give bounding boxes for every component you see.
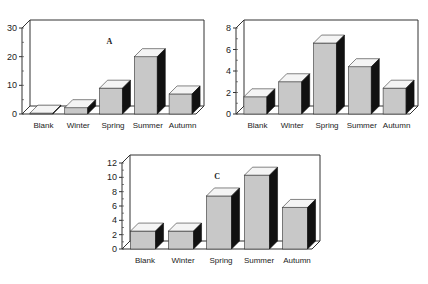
bar-front xyxy=(65,108,88,114)
bar-side xyxy=(371,59,379,114)
chart-panel-a: 0102030ABlankWinterSpringSummerAutumn xyxy=(0,10,214,140)
bar-side xyxy=(308,199,316,249)
x-tick-label: Winter xyxy=(67,121,90,130)
chart-panel-b: 02468BBlankWinterSpringSummerAutumn xyxy=(214,10,428,140)
bar-side xyxy=(157,49,165,114)
bar-winter xyxy=(65,100,96,114)
bar-autumn xyxy=(282,199,315,249)
y-tick-label: 12 xyxy=(107,158,117,168)
bar-chart-b: 02468BBlankWinterSpringSummerAutumn xyxy=(214,10,428,140)
x-tick-label: Winter xyxy=(171,256,194,265)
bar-blank xyxy=(130,223,163,249)
x-tick-label: Blank xyxy=(247,121,268,130)
bar-front xyxy=(279,82,302,114)
x-tick-label: Spring xyxy=(101,121,124,130)
bar-summer xyxy=(134,49,165,114)
chart-panel-c: 024681012CBlankWinterSpringSummerAutumn xyxy=(100,145,330,275)
x-tick-label: Blank xyxy=(33,121,54,130)
x-tick-label: Blank xyxy=(135,256,156,265)
x-tick-label: Summer xyxy=(133,121,164,130)
y-tick-label: 10 xyxy=(7,80,17,90)
y-tick-label: 2 xyxy=(112,230,117,240)
bar-front xyxy=(130,231,155,249)
x-tick-label: Autumn xyxy=(283,256,311,265)
bar-spring xyxy=(100,80,131,114)
bar-front xyxy=(168,231,193,249)
bar-front xyxy=(206,196,231,249)
x-tick-label: Spring xyxy=(315,121,338,130)
bar-autumn xyxy=(383,80,414,114)
bar-front xyxy=(314,43,337,114)
bar-side xyxy=(336,35,344,114)
bar-front xyxy=(134,57,157,114)
bar-front xyxy=(169,94,192,114)
y-tick-label: 0 xyxy=(12,109,17,119)
bar-winter xyxy=(279,74,310,114)
x-tick-label: Winter xyxy=(281,121,304,130)
y-tick-label: 6 xyxy=(226,45,231,55)
y-tick-label: 10 xyxy=(107,172,117,182)
x-tick-label: Summer xyxy=(244,256,275,265)
bar-front xyxy=(383,88,406,114)
y-tick-label: 0 xyxy=(226,109,231,119)
x-tick-label: Autumn xyxy=(169,121,197,130)
bar-spring xyxy=(206,188,239,249)
bar-front xyxy=(244,97,267,114)
bar-side xyxy=(270,167,278,249)
panel-label: C xyxy=(214,172,220,181)
y-tick-label: 4 xyxy=(226,66,231,76)
bar-front xyxy=(348,67,371,114)
bar-front xyxy=(100,88,123,114)
y-tick-label: 6 xyxy=(112,201,117,211)
y-tick-label: 20 xyxy=(7,52,17,62)
bar-winter xyxy=(168,223,201,249)
y-tick-label: 8 xyxy=(226,23,231,33)
bar-side xyxy=(232,188,240,249)
x-tick-label: Spring xyxy=(209,256,232,265)
y-tick-label: 4 xyxy=(112,215,117,225)
bar-front xyxy=(282,207,307,249)
y-tick-label: 30 xyxy=(7,23,17,33)
bar-chart-c: 024681012CBlankWinterSpringSummerAutumn xyxy=(100,145,330,275)
bar-summer xyxy=(348,59,379,114)
y-tick-label: 2 xyxy=(226,88,231,98)
y-tick-label: 0 xyxy=(112,244,117,254)
bar-blank xyxy=(244,89,275,114)
bar-summer xyxy=(244,167,277,249)
panel-label: A xyxy=(106,37,112,46)
x-tick-label: Autumn xyxy=(383,121,411,130)
x-tick-label: Summer xyxy=(347,121,378,130)
y-tick-label: 8 xyxy=(112,187,117,197)
bar-autumn xyxy=(169,86,200,114)
bar-chart-a: 0102030ABlankWinterSpringSummerAutumn xyxy=(0,10,214,140)
bar-front xyxy=(244,175,269,249)
bar-spring xyxy=(314,35,345,114)
